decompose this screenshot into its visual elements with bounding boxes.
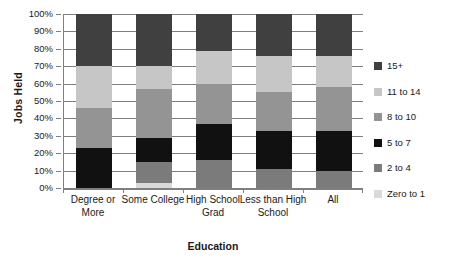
bar-segment[interactable] (76, 148, 112, 188)
y-axis-tick (56, 84, 61, 85)
y-axis-tick-label: 70% (34, 61, 53, 71)
legend-label: 15+ (387, 61, 403, 71)
legend-swatch-icon (374, 164, 382, 172)
bar-segment[interactable] (316, 14, 352, 56)
bar-segment[interactable] (196, 51, 232, 84)
legend-item[interactable]: Zero to 1 (374, 188, 452, 200)
x-axis-line (63, 188, 363, 190)
bar-segment[interactable] (136, 138, 172, 162)
x-axis-tick (183, 188, 184, 193)
legend-swatch-icon (374, 113, 382, 121)
legend-item[interactable]: 8 to 10 (374, 111, 452, 123)
y-axis-tick-label: 40% (34, 113, 53, 123)
x-axis-tick-labels: Degree or MoreSome CollegeHigh School Gr… (63, 194, 363, 240)
y-axis-tick-label: 100% (29, 9, 53, 19)
bar-degree-or-more[interactable] (76, 14, 112, 188)
bar-segment[interactable] (76, 14, 112, 66)
y-axis-tick (56, 136, 61, 137)
bar-less-than-high-school[interactable] (256, 14, 292, 188)
bar-some-college[interactable] (136, 14, 172, 188)
y-axis-tick (56, 171, 61, 172)
y-axis-tick-label: 90% (34, 26, 53, 36)
legend-swatch-icon (374, 139, 382, 147)
y-axis-tick-labels: 0%10%20%30%40%50%60%70%80%90%100% (0, 0, 61, 202)
bar-segment[interactable] (136, 89, 172, 138)
legend-label: 11 to 14 (387, 87, 421, 97)
legend-swatch-icon (374, 190, 382, 198)
y-axis-tick-label: 0% (39, 183, 53, 193)
x-axis-tick-label: All (298, 194, 368, 207)
bar-segment[interactable] (316, 131, 352, 171)
bar-segment[interactable] (256, 56, 292, 93)
y-axis-tick-label: 50% (34, 96, 53, 106)
bar-segment[interactable] (136, 14, 172, 66)
y-axis-tick (56, 49, 61, 50)
legend-label: 2 to 4 (387, 163, 411, 173)
bar-segment[interactable] (196, 84, 232, 124)
bar-segment[interactable] (316, 56, 352, 87)
legend-item[interactable]: 5 to 7 (374, 137, 452, 149)
y-axis-tick-label: 30% (34, 131, 53, 141)
bar-all[interactable] (316, 14, 352, 188)
bar-segment[interactable] (76, 108, 112, 148)
bar-segment[interactable] (316, 171, 352, 188)
legend: 15+11 to 148 to 105 to 72 to 4Zero to 1 (374, 60, 452, 213)
x-axis-tick (362, 188, 363, 193)
legend-label: Zero to 1 (387, 189, 425, 199)
y-axis-tick-label: 20% (34, 148, 53, 158)
legend-swatch-icon (374, 88, 382, 96)
y-axis-tick-label: 10% (34, 166, 53, 176)
x-axis-tick (123, 188, 124, 193)
bar-segment[interactable] (136, 162, 172, 183)
y-axis-tick (56, 118, 61, 119)
x-axis-tick (303, 188, 304, 193)
y-axis-tick (56, 66, 61, 67)
x-axis-tick (243, 188, 244, 193)
bar-segment[interactable] (196, 160, 232, 188)
plot-area (63, 14, 363, 188)
bar-segment[interactable] (256, 14, 292, 56)
bar-segment[interactable] (196, 14, 232, 51)
y-axis-tick (56, 31, 61, 32)
bar-group (64, 14, 363, 188)
legend-label: 5 to 7 (387, 138, 411, 148)
bar-segment[interactable] (256, 131, 292, 169)
y-axis-tick-label: 80% (34, 44, 53, 54)
bar-segment[interactable] (316, 87, 352, 131)
bar-segment[interactable] (76, 66, 112, 108)
y-axis-tick (56, 188, 61, 189)
legend-item[interactable]: 2 to 4 (374, 162, 452, 174)
legend-swatch-icon (374, 62, 382, 70)
y-axis-tick (56, 101, 61, 102)
bar-high-school-grad[interactable] (196, 14, 232, 188)
bar-segment[interactable] (256, 92, 292, 130)
stacked-bar-chart: Jobs Held 0%10%20%30%40%50%60%70%80%90%1… (0, 0, 452, 266)
bar-segment[interactable] (256, 169, 292, 188)
legend-item[interactable]: 11 to 14 (374, 86, 452, 98)
y-axis-tick (56, 153, 61, 154)
y-axis-tick (56, 14, 61, 15)
bar-segment[interactable] (136, 66, 172, 89)
legend-label: 8 to 10 (387, 112, 416, 122)
bar-segment[interactable] (196, 124, 232, 161)
x-axis-title: Education (63, 240, 363, 252)
legend-item[interactable]: 15+ (374, 60, 452, 72)
x-axis-tick (63, 188, 64, 193)
y-axis-tick-label: 60% (34, 79, 53, 89)
